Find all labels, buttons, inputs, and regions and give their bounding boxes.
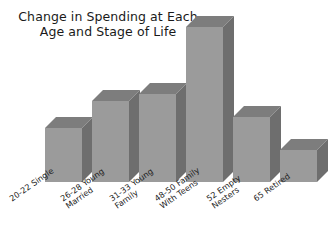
bar-front-face [186, 27, 223, 182]
bar-column [233, 106, 281, 182]
x-axis-labels: 20-22 Single26-28 Young Married31-33 You… [0, 182, 329, 243]
bar-front-face [233, 117, 270, 182]
chart-container: Change in Spending at Each Age and Stage… [0, 0, 329, 243]
bar-column [186, 16, 234, 182]
plot-area [0, 0, 329, 190]
